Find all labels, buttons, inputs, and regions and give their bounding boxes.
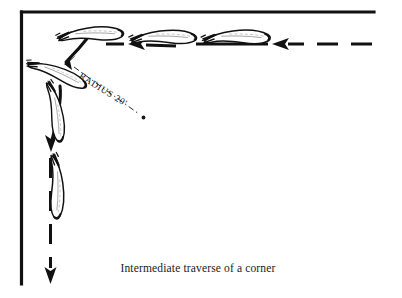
solid-segment-mid <box>146 45 176 46</box>
hull-top-mid <box>128 25 197 52</box>
hull-left-lower <box>42 152 69 220</box>
radius-center-dot <box>142 116 146 120</box>
corner-traverse-diagram <box>0 0 402 298</box>
hull-left-upper <box>38 79 72 143</box>
hull-top-right <box>200 25 270 52</box>
figure-caption-text: Intermediate traverse of a corner <box>120 262 275 274</box>
figure-caption: Intermediate traverse of a corner <box>0 262 402 274</box>
arrowhead-top-right <box>272 38 289 50</box>
hull-top-left <box>55 21 124 50</box>
hull-group <box>23 21 271 219</box>
